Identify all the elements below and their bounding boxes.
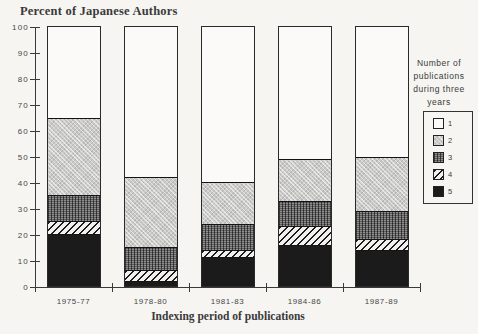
bar-segment-publications-2 [202,182,254,223]
stacked-bar-1984-86 [278,26,332,287]
chart-title: Percent of Japanese Authors [20,4,178,19]
legend-swatch-light-halftone [433,135,444,146]
bar-segment-publications-4 [48,221,100,234]
bar-segment-publications-1 [279,27,331,159]
bar-segment-publications-4 [202,250,254,258]
y-tick [30,183,40,184]
legend-swatch-dark-halftone [433,152,444,163]
bar-segment-publications-5 [279,245,331,286]
x-tick [343,283,344,292]
bar-segment-publications-3 [202,224,254,250]
bar-segment-publications-5 [202,257,254,285]
y-tick [30,261,40,262]
x-tick [189,283,190,292]
y-axis [35,27,36,288]
bar-segment-publications-3 [125,247,177,270]
y-tick-label: 50 [5,153,29,162]
bar-segment-publications-2 [356,157,408,211]
y-tick [30,235,40,236]
y-tick [30,157,40,158]
y-tick-label: 70 [5,101,29,110]
x-tick-label: 1981-83 [189,297,266,306]
x-axis [35,287,421,288]
y-tick-label: 100 [5,23,29,32]
y-tick-label: 10 [5,257,29,266]
bar-segment-publications-2 [125,177,177,247]
legend-swatch-diagonal-hatch [433,169,444,180]
stacked-bar-chart-figure: Percent of Japanese Authors 010203040506… [0,0,478,334]
legend-title-line: during three [400,83,478,96]
bar-segment-publications-1 [125,27,177,177]
bar-segment-publications-5 [356,250,408,286]
y-tick-label: 40 [5,179,29,188]
y-tick-label: 30 [5,205,29,214]
y-tick [30,105,40,106]
y-tick-label: 60 [5,127,29,136]
bar-segment-publications-1 [48,27,100,118]
y-tick-label: 20 [5,231,29,240]
legend-box: 12345 [423,111,473,204]
stacked-bar-1978-80 [124,26,178,287]
bar-segment-publications-1 [202,27,254,182]
bar-segment-publications-2 [48,118,100,196]
y-tick [30,79,40,80]
legend-item-label: 2 [448,136,452,145]
legend-item-5: 5 [433,186,472,197]
legend-title-line: years [400,96,478,109]
x-tick [420,283,421,292]
legend-item-label: 4 [448,170,452,179]
legend-item-4: 4 [433,169,472,180]
y-tick-label: 80 [5,75,29,84]
y-tick-label: 0 [5,283,29,292]
legend-item-1: 1 [433,118,472,129]
bar-segment-publications-5 [48,234,100,286]
bar-segment-publications-4 [356,239,408,249]
x-tick-label: 1975-77 [35,297,112,306]
legend-swatch-black [433,186,444,197]
stacked-bar-1981-83 [201,26,255,287]
x-tick-label: 1978-80 [112,297,189,306]
x-axis-label: Indexing period of publications [35,310,421,322]
x-tick [112,283,113,292]
y-tick [30,53,40,54]
bar-segment-publications-2 [279,159,331,200]
x-tick-label: 1984-86 [266,297,343,306]
y-tick [30,27,40,28]
legend-item-label: 1 [448,119,452,128]
legend-item-label: 3 [448,153,452,162]
bar-segment-publications-5 [125,281,177,286]
y-tick-label: 90 [5,49,29,58]
x-tick [266,283,267,292]
bar-segment-publications-3 [279,201,331,227]
legend-item-label: 5 [448,187,452,196]
bar-segment-publications-4 [125,270,177,280]
legend-item-2: 2 [433,135,472,146]
bar-segment-publications-3 [48,195,100,221]
legend-title-line: publications [400,70,478,83]
legend-item-3: 3 [433,152,472,163]
bar-segment-publications-3 [356,211,408,239]
y-tick [30,209,40,210]
x-tick [35,283,36,292]
legend-swatch-white [433,118,444,129]
x-tick-label: 1987-89 [343,297,420,306]
stacked-bar-1975-77 [47,26,101,287]
bar-segment-publications-4 [279,226,331,244]
legend-title-line: Number of [400,57,478,70]
legend-title: Number of publications during three year… [400,57,478,109]
y-tick [30,131,40,132]
